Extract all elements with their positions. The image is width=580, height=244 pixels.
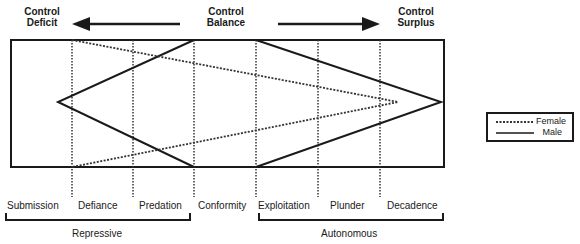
bracket-autonomous — [259, 213, 443, 220]
category-plunder: Plunder — [330, 200, 364, 211]
legend: Female Male — [486, 112, 574, 142]
category-predation: Predation — [139, 200, 182, 211]
group-autonomous: Autonomous — [321, 228, 377, 239]
category-defiance: Defiance — [78, 200, 117, 211]
arrow-right-icon — [278, 17, 380, 31]
male-surplus-curve — [256, 40, 441, 167]
category-submission: Submission — [7, 200, 59, 211]
category-decadence: Decadence — [387, 200, 438, 211]
arrow-left-icon — [72, 17, 180, 31]
group-repressive: Repressive — [72, 228, 122, 239]
category-exploitation: Exploitation — [258, 200, 310, 211]
legend-male: Male — [542, 127, 562, 137]
bracket-repressive — [6, 213, 190, 220]
category-conformity: Conformity — [198, 200, 246, 211]
legend-female: Female — [536, 116, 566, 126]
female-curve — [72, 40, 398, 167]
diagram-frame — [11, 40, 444, 167]
category-dividers — [72, 40, 380, 197]
